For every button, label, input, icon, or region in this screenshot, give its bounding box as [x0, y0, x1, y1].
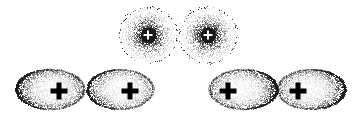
- scatter-figure: top-cloud-left top-cloud-right bottom-el…: [0, 0, 356, 123]
- point-density-canvas: [0, 0, 356, 123]
